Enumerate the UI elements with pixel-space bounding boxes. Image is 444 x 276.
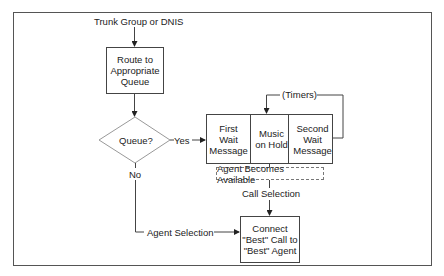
no-label: No bbox=[129, 169, 141, 180]
connect-call-agent-box: Connect "Best" Call to "Best" Agent bbox=[240, 216, 300, 263]
first-wait-message-box: First Wait Message bbox=[206, 114, 251, 164]
queue-decision: Queue? bbox=[119, 135, 153, 146]
call-selection-label: Call Selection bbox=[242, 188, 300, 199]
yes-label: Yes bbox=[174, 135, 190, 146]
music-on-hold-box: Music on Hold bbox=[250, 114, 289, 164]
route-to-queue-box: Route to Appropriate Queue bbox=[106, 47, 164, 94]
start-label: Trunk Group or DNIS bbox=[94, 16, 183, 27]
agent-available-box: Agent Becomes Available bbox=[216, 167, 324, 180]
call-routing-flowchart: Trunk Group or DNIS Route to Appropriate… bbox=[0, 0, 444, 276]
second-wait-message-box: Second Wait Message bbox=[288, 114, 333, 164]
timers-label: (Timers) bbox=[282, 89, 317, 100]
agent-selection-label: Agent Selection bbox=[147, 227, 214, 238]
